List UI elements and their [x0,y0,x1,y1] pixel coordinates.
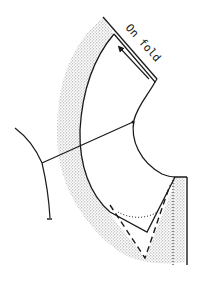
adjacent-piece-outline [15,128,50,218]
inner-neck-curve [133,82,187,177]
seam-allowance-shading-outer [57,18,185,264]
pattern-diagram: On fold [0,0,202,290]
shoulder-line [42,122,133,163]
v-neck-dotted-curve [118,212,157,217]
notch-point [132,121,135,124]
